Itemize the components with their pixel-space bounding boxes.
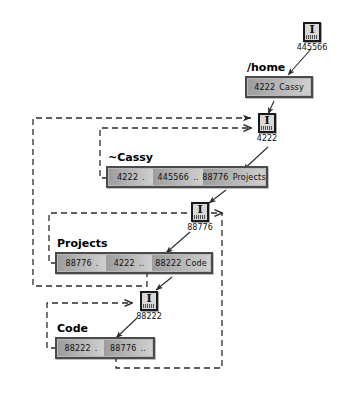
entry-name: ..	[139, 259, 145, 268]
directory-entry[interactable]: 4222 Cassy	[248, 79, 310, 95]
directory-block-projects: Projects 88776 . 4222 .. 88222 Code	[55, 252, 213, 274]
directory-caption: ~Cassy	[108, 151, 153, 164]
inode-icon	[258, 113, 276, 133]
entry-name: .	[95, 344, 98, 353]
entry-name: .	[142, 173, 145, 182]
inode-icon	[140, 291, 158, 311]
entry-inode: 4222	[114, 259, 135, 268]
entry-inode: 88776	[110, 344, 136, 353]
inode-icon	[191, 202, 209, 222]
directory-entry-table: 4222 Cassy	[245, 76, 313, 98]
inode-icon	[303, 22, 321, 42]
directory-entry[interactable]: 88776 .	[58, 255, 106, 271]
entry-inode: 88222	[64, 344, 90, 353]
entry-name: ..	[193, 173, 199, 182]
entry-name: .	[96, 259, 99, 268]
directory-entry-table: 88222 . 88776 ..	[55, 337, 155, 359]
entry-inode: 445566	[157, 173, 189, 182]
edge-root-inode-to-home-dir	[288, 49, 311, 75]
inode-icon-4222[interactable]: 4222	[258, 113, 276, 133]
entry-inode: 4222	[117, 173, 138, 182]
edge-inode-88222-to-code-dir	[116, 318, 137, 338]
directory-entry[interactable]: 445566 ..	[153, 169, 203, 185]
inode-number: 4222	[257, 134, 277, 143]
edge-cassy-entry-to-inode-88776	[209, 190, 226, 203]
inode-icon-88776[interactable]: 88776	[191, 202, 209, 222]
directory-entry[interactable]: 4222 ..	[106, 255, 152, 271]
entry-name: Code	[186, 259, 207, 268]
inode-icon-445566[interactable]: 445566	[303, 22, 321, 42]
inode-number: 88776	[187, 223, 212, 232]
inode-icon-88222[interactable]: 88222	[140, 291, 158, 311]
entry-inode: 4222	[254, 83, 275, 92]
entry-inode: 88222	[155, 259, 181, 268]
inode-number: 88222	[136, 312, 161, 321]
directory-entry-table: 4222 . 445566 .. 88776 Projects	[106, 166, 268, 188]
entry-name: Projects	[233, 173, 266, 182]
connector-layer	[0, 0, 352, 398]
directory-block-cassy: ~Cassy 4222 . 445566 .. 88776 Projects	[106, 166, 268, 188]
edge-inode-88776-to-projects-dir	[166, 232, 190, 253]
directory-entry[interactable]: 88222 Code	[152, 255, 210, 271]
entry-inode: 88776	[202, 173, 228, 182]
directory-entry-table: 88776 . 4222 .. 88222 Code	[55, 252, 213, 274]
directory-caption: /home	[247, 61, 285, 74]
diagram-canvas: 445566 4222 88776 88222 /home 4222 Cassy…	[0, 0, 352, 398]
directory-entry[interactable]: 88776 Projects	[203, 169, 265, 185]
directory-caption: Projects	[57, 237, 108, 250]
directory-caption: Code	[57, 322, 88, 335]
directory-block-code: Code 88222 . 88776 ..	[55, 337, 155, 359]
directory-entry[interactable]: 4222 .	[109, 169, 153, 185]
inode-number: 445566	[297, 43, 328, 52]
directory-block-home: /home 4222 Cassy	[245, 76, 313, 98]
edge-projects-entry-to-inode-88222	[156, 277, 172, 290]
entry-name: Cassy	[279, 83, 304, 92]
directory-entry[interactable]: 88776 ..	[104, 340, 152, 356]
directory-entry[interactable]: 88222 .	[58, 340, 104, 356]
entry-name: ..	[140, 344, 146, 353]
entry-inode: 88776	[65, 259, 91, 268]
